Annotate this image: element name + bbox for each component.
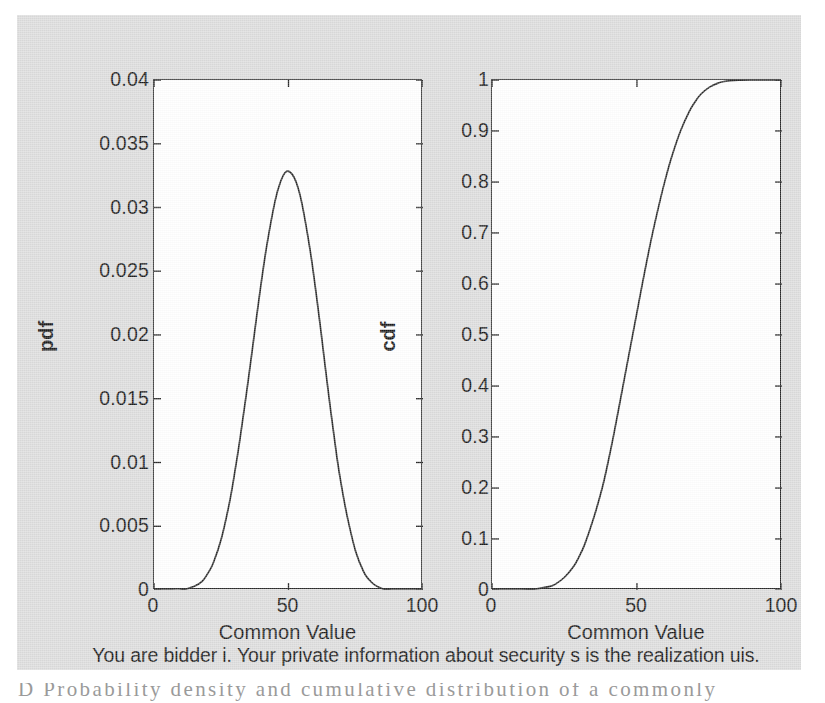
pdf-x-tick: 50 xyxy=(277,594,299,617)
cdf-x-tick: 0 xyxy=(486,594,497,617)
clipped-caption-line: D Probability density and cumulative dis… xyxy=(0,683,825,703)
pdf-y-tick: 0.03 xyxy=(110,195,149,218)
cdf-curve-canvas xyxy=(492,80,782,590)
cdf-y-tick: 0.3 xyxy=(461,425,489,448)
cdf-y-tick: 0.5 xyxy=(461,323,489,346)
cdf-y-tick: 1 xyxy=(478,68,489,91)
pdf-x-axis-label: Common Value xyxy=(153,621,422,644)
cdf-y-tick: 0.2 xyxy=(461,476,489,499)
cdf-y-tick: 0.1 xyxy=(461,527,489,550)
figure-note-text: You are bidder i. Your private informati… xyxy=(34,644,818,667)
pdf-y-tick: 0.04 xyxy=(110,68,149,91)
cdf-x-tick-labels: 050100 xyxy=(491,594,781,622)
cdf-y-tick: 0.6 xyxy=(461,272,489,295)
cdf-y-tick: 0.4 xyxy=(461,374,489,397)
cdf-y-tick: 0.7 xyxy=(461,221,489,244)
pdf-y-axis-label: pdf xyxy=(35,321,58,352)
pdf-y-tick: 0.01 xyxy=(110,450,149,473)
scanned-page: 00.0050.010.0150.020.0250.030.0350.04 05… xyxy=(0,0,825,703)
cdf-x-tick: 50 xyxy=(625,594,647,617)
cdf-plot-axes xyxy=(491,79,781,589)
pdf-x-tick-labels: 050100 xyxy=(153,594,422,622)
pdf-x-tick: 0 xyxy=(148,594,159,617)
pdf-y-tick: 0.025 xyxy=(99,259,149,282)
pdf-y-tick: 0.005 xyxy=(99,514,149,537)
figure-panel: 00.0050.010.0150.020.0250.030.0350.04 05… xyxy=(17,15,801,670)
pdf-y-tick: 0.015 xyxy=(99,386,149,409)
cdf-x-axis-label: Common Value xyxy=(491,621,781,644)
cdf-y-tick: 0.8 xyxy=(461,170,489,193)
cdf-curve xyxy=(492,80,782,590)
pdf-y-tick: 0.02 xyxy=(110,323,149,346)
pdf-y-tick: 0.035 xyxy=(99,131,149,154)
cdf-y-tick: 0.9 xyxy=(461,119,489,142)
cdf-y-axis-label: cdf xyxy=(377,322,400,352)
pdf-x-tick: 100 xyxy=(406,594,439,617)
clipped-caption-text: D Probability density and cumulative dis… xyxy=(18,683,717,702)
cdf-x-tick: 100 xyxy=(765,594,798,617)
